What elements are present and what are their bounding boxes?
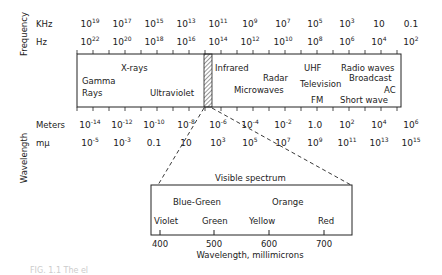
visible-green: Green	[202, 216, 228, 226]
band-ac: AC	[384, 85, 396, 95]
hz-tick-0: 1022	[80, 35, 99, 47]
khz-tick-0: 1019	[80, 17, 99, 29]
meters-tick-8: 102	[339, 118, 354, 130]
band-television: Television	[299, 79, 341, 89]
meters-tick-9: 104	[371, 118, 386, 130]
visible-tick-400: 400	[152, 239, 168, 249]
visible-violet: Violet	[154, 216, 179, 226]
visible-axis-label: Wavelength, millimicrons	[196, 250, 304, 260]
bottom-ticks	[77, 107, 397, 111]
hz-tick-2: 1018	[144, 35, 163, 47]
mmu-tick-7: 109	[307, 136, 322, 148]
visible-band-hatch	[204, 54, 212, 107]
wavelength-label: Wavelength	[19, 133, 29, 183]
mmu-tick-9: 1013	[369, 136, 388, 148]
figure-caption: FIG. 1.1 The el	[30, 266, 88, 275]
mmu-tick-5: 105	[242, 136, 257, 148]
band-gamma: Gamma	[82, 76, 116, 86]
hz-tick-10: 102	[403, 35, 418, 47]
hz-tick-row: 1022102010181016101410121010108106104102	[80, 35, 418, 47]
hz-tick-8: 106	[339, 35, 354, 47]
band-broadcast: Broadcast	[349, 73, 392, 83]
frequency-label: Frequency	[19, 12, 29, 56]
mmu-tick-10: 1015	[401, 136, 420, 148]
meters-label: Meters	[36, 120, 66, 130]
meters-tick-5: 10-4	[241, 118, 259, 130]
visible-orange: Orange	[272, 197, 303, 207]
band-gamma-rays: Rays	[82, 88, 103, 98]
visible-spectrum-title: Visible spectrum	[215, 173, 286, 183]
hz-tick-6: 1010	[273, 35, 292, 47]
khz-tick-10: 0.1	[404, 19, 418, 29]
band-fm: FM	[311, 95, 323, 105]
khz-tick-7: 105	[307, 17, 322, 29]
khz-tick-1: 1017	[112, 17, 131, 29]
visible-ticks	[160, 230, 324, 235]
khz-tick-3: 1013	[176, 17, 195, 29]
hz-label: Hz	[36, 37, 47, 47]
meters-tick-0: 10-14	[79, 118, 100, 130]
band-microwaves: Microwaves	[234, 85, 284, 95]
mmu-tick-4: 103	[210, 136, 225, 148]
khz-tick-9: 10	[373, 19, 385, 29]
mmu-label: mμ	[36, 138, 50, 148]
hz-tick-1: 1020	[112, 35, 131, 47]
band-ultraviolet: Ultraviolet	[150, 88, 195, 98]
khz-tick-row: 10191017101510131011109107105103100.1	[80, 17, 418, 29]
mmu-tick-6: 107	[275, 136, 290, 148]
khz-tick-6: 107	[275, 17, 290, 29]
meters-tick-7: 1.0	[308, 120, 323, 130]
mmu-tick-row: 10-510-30.110103105107109101110131015	[81, 136, 420, 148]
electromagnetic-spectrum-diagram: Frequency Wavelength KHz Hz Meters mμ 10…	[0, 0, 442, 275]
meters-tick-1: 10-12	[111, 118, 132, 130]
visible-red: Red	[318, 216, 334, 226]
hz-tick-9: 104	[371, 35, 386, 47]
meters-tick-2: 10-10	[143, 118, 164, 130]
visible-tick-700: 700	[316, 239, 332, 249]
visible-yellow: Yellow	[248, 216, 275, 226]
meters-tick-10: 106	[403, 118, 418, 130]
mmu-tick-8: 1011	[337, 136, 356, 148]
band-radar: Radar	[263, 73, 289, 83]
visible-spectrum-box	[151, 185, 352, 235]
khz-label: KHz	[36, 19, 53, 29]
top-ticks	[77, 50, 397, 54]
hz-tick-5: 1012	[240, 35, 259, 47]
mmu-tick-0: 10-5	[81, 136, 99, 148]
mmu-tick-2: 0.1	[147, 138, 161, 148]
khz-tick-2: 1015	[144, 17, 163, 29]
visible-blue-green: Blue-Green	[173, 197, 221, 207]
band-infrared: Infrared	[215, 63, 249, 73]
visible-tick-600: 600	[261, 239, 277, 249]
hz-tick-7: 108	[307, 35, 322, 47]
band-short-wave: Short wave	[340, 95, 388, 105]
visible-tick-500: 500	[206, 239, 222, 249]
band-radio-waves: Radio waves	[341, 63, 395, 73]
hz-tick-4: 1014	[208, 35, 227, 47]
khz-tick-8: 103	[339, 17, 354, 29]
mmu-tick-3: 10	[180, 138, 192, 148]
band-xrays: X-rays	[121, 63, 148, 73]
band-uhf: UHF	[304, 63, 322, 73]
meters-tick-6: 10-2	[274, 118, 292, 130]
mmu-tick-1: 10-3	[113, 136, 131, 148]
meters-tick-4: 10-6	[209, 118, 227, 130]
khz-tick-4: 1011	[208, 17, 227, 29]
hz-tick-3: 1016	[176, 35, 195, 47]
khz-tick-5: 109	[242, 17, 257, 29]
